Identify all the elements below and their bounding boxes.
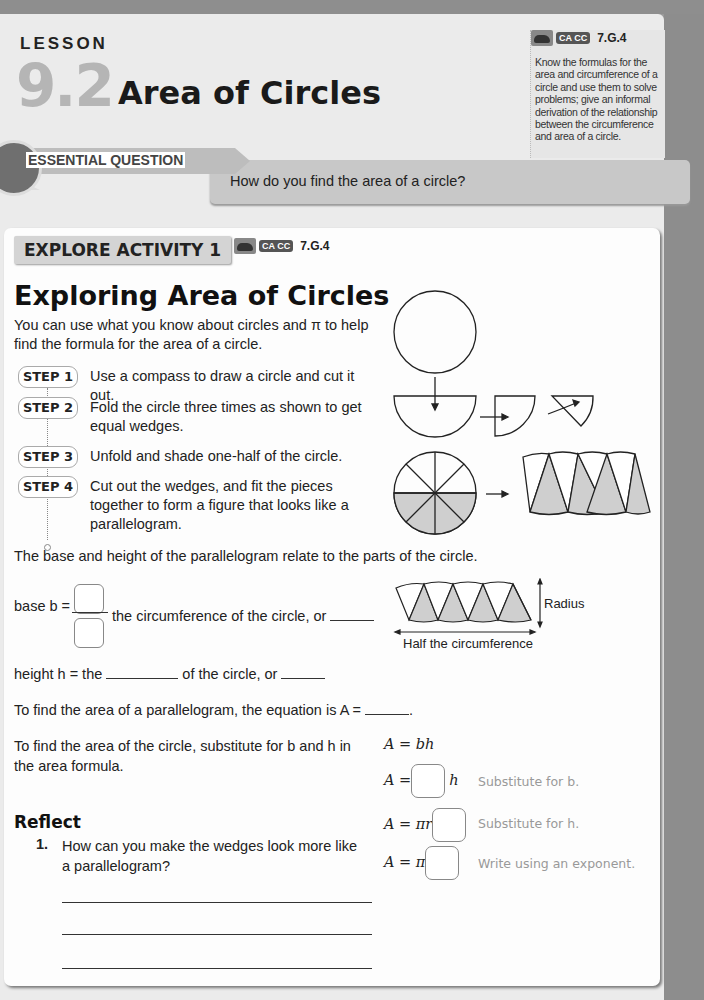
intro-text: You can use what you know about circles … (14, 316, 384, 354)
formula-hint: Write using an exponent. (478, 856, 635, 871)
step-label: STEP 2 (18, 397, 78, 419)
essential-question-text: How do you find the area of a circle? (230, 173, 465, 189)
reflect-heading: Reflect (14, 812, 81, 832)
standard-description: Know the formulas for the area and circu… (531, 56, 665, 143)
step-text: Cut out the wedges, and fit the pieces t… (90, 477, 380, 534)
height-answer-blank-1[interactable] (106, 664, 178, 679)
explore-standard-badge: CA CC 7.G.4 (234, 238, 330, 254)
base-prefix: base b = (14, 598, 70, 614)
standard-badge: CA CC 7.G.4 (531, 30, 627, 46)
formula-3: A = πr (384, 808, 466, 842)
essential-question-box: How do you find the area of a circle? (210, 160, 690, 204)
lesson-title: Area of Circles (118, 74, 381, 112)
question-text: How can you make the wedges look more li… (62, 836, 362, 876)
explore-activity-tag: EXPLORE ACTIVITY 1 (14, 236, 231, 264)
height-prefix-text: height h = the (14, 666, 102, 682)
standard-code: 7.G.4 (300, 239, 329, 253)
relation-text: The base and height of the parallelogram… (14, 548, 477, 564)
numerator-input[interactable] (74, 584, 104, 614)
step-text: Fold the circle three times as shown to … (90, 398, 380, 436)
formula-answer-box[interactable] (432, 808, 466, 842)
base-suffix: the circumference of the circle, or (112, 606, 374, 624)
step-label: STEP 1 (18, 366, 78, 388)
bear-icon (234, 238, 256, 254)
cacc-label: CA CC (556, 32, 590, 44)
formula-answer-box[interactable] (425, 846, 459, 880)
answer-line-3[interactable] (62, 968, 372, 969)
step-label: STEP 4 (18, 476, 78, 498)
question-number: 1. (36, 836, 48, 852)
formula-hint: Substitute for b. (478, 774, 579, 789)
formula-hint: Substitute for h. (478, 816, 579, 831)
denominator-input[interactable] (74, 618, 104, 648)
height-suffix-text: of the circle, or (182, 666, 277, 682)
top-strip (0, 0, 704, 14)
half-circumference-label: Half the circumference (403, 636, 533, 651)
base-suffix-text: the circumference of the circle, or (112, 608, 326, 624)
answer-line-1[interactable] (62, 902, 372, 903)
formula-1: A = bh (384, 736, 434, 752)
height-answer-blank-2[interactable] (281, 664, 325, 679)
formula-text: A = π (384, 854, 425, 870)
activity-title: Exploring Area of Circles (14, 280, 389, 311)
formula-text: A = (384, 772, 411, 788)
formula-after: h (449, 772, 458, 788)
substitute-text: To find the area of the circle, substitu… (14, 736, 354, 776)
bear-icon (531, 30, 553, 46)
height-row: height h = the of the circle, or (14, 664, 325, 682)
base-prefix-text: base b = (14, 598, 70, 614)
parallelogram-eq-text: To find the area of a parallelogram, the… (14, 702, 361, 718)
area-equation-blank[interactable] (365, 700, 409, 715)
formula-4: A = π (384, 846, 459, 880)
cacc-label: CA CC (259, 240, 293, 252)
essential-question-label: ESSENTIAL QUESTION (26, 152, 185, 168)
step-label: STEP 3 (18, 446, 78, 468)
formula-2: A = h (384, 764, 459, 798)
fraction-bar (72, 612, 108, 613)
answer-line-2[interactable] (62, 934, 372, 935)
formula-text: A = bh (384, 736, 434, 752)
base-answer-blank[interactable] (330, 606, 374, 621)
folding-diagram (380, 280, 660, 540)
parallelogram-equation: To find the area of a parallelogram, the… (14, 700, 413, 718)
radius-label: Radius (544, 596, 584, 611)
lesson-label: LESSON (20, 34, 108, 54)
formula-answer-box[interactable] (411, 764, 445, 798)
formula-text: A = πr (384, 816, 432, 832)
step-text: Unfold and shade one-half of the circle. (90, 447, 380, 466)
lesson-number: 9.2 (16, 52, 113, 120)
standard-code: 7.G.4 (597, 31, 626, 45)
standard-box: CA CC 7.G.4 Know the formulas for the ar… (530, 30, 665, 158)
